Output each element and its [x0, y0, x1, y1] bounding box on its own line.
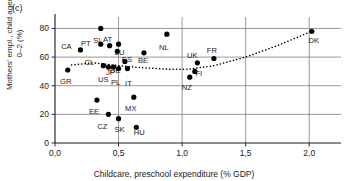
data-point-label: DK — [308, 36, 319, 45]
data-point — [309, 29, 314, 34]
data-point-label: FI — [195, 69, 202, 78]
y-tick-label: 0 — [44, 138, 49, 148]
data-point-label: FR — [207, 46, 218, 55]
x-tick-label: 0,5 — [113, 148, 125, 158]
y-axis-ticks: 020406080 — [40, 23, 55, 148]
data-point-label: UK — [187, 51, 198, 60]
data-point-label: MX — [125, 104, 136, 113]
data-point-label: HU — [134, 128, 145, 137]
data-point — [106, 112, 111, 117]
data-point — [125, 66, 130, 71]
data-point-label: SI — [93, 36, 100, 45]
data-point-label: IT — [125, 79, 132, 88]
y-tick-label: 20 — [40, 109, 50, 119]
x-tick-label: 1,5 — [240, 148, 252, 158]
data-point — [211, 56, 216, 61]
data-point — [187, 75, 192, 80]
data-point-label: DE — [110, 66, 121, 75]
data-point — [116, 42, 121, 47]
chart-figure: (c) Mothers' empl., child aged 0–2 (%) C… — [0, 0, 348, 181]
y-tick-label: 80 — [40, 23, 50, 33]
data-point — [141, 50, 146, 55]
data-point-label: AT — [103, 35, 113, 44]
x-tick-label: 1,0 — [176, 148, 188, 158]
data-point-label: EE — [89, 107, 99, 116]
data-point — [131, 95, 136, 100]
data-point-label: CA — [61, 42, 72, 51]
data-point — [164, 32, 169, 37]
y-tick-label: 60 — [40, 52, 50, 62]
scatter-plot: 020406080 0,00,51,01,52,0 GRCAEESIPTCLAT… — [0, 0, 348, 181]
data-point-label: PT — [81, 39, 91, 48]
y-tick-label: 40 — [40, 81, 50, 91]
data-point-label: GR — [60, 77, 72, 86]
data-point — [107, 43, 112, 48]
data-point — [98, 26, 103, 31]
x-axis-ticks: 0,00,51,01,52,0 — [49, 143, 315, 158]
data-point-label: NL — [159, 43, 169, 52]
data-point-label: BE — [138, 56, 148, 65]
data-point-label: ES — [122, 55, 132, 64]
data-point — [195, 60, 200, 65]
data-point-label: NZ — [182, 83, 192, 92]
data-point-label: SK — [114, 125, 124, 134]
x-tick-label: 0,0 — [49, 148, 61, 158]
x-tick-label: 2,0 — [303, 148, 315, 158]
data-point-label: CL — [84, 58, 94, 67]
data-point-label: CZ — [97, 122, 107, 131]
data-point-label: PL — [111, 78, 120, 87]
data-point — [65, 67, 70, 72]
data-point — [116, 116, 121, 121]
data-point — [94, 97, 99, 102]
